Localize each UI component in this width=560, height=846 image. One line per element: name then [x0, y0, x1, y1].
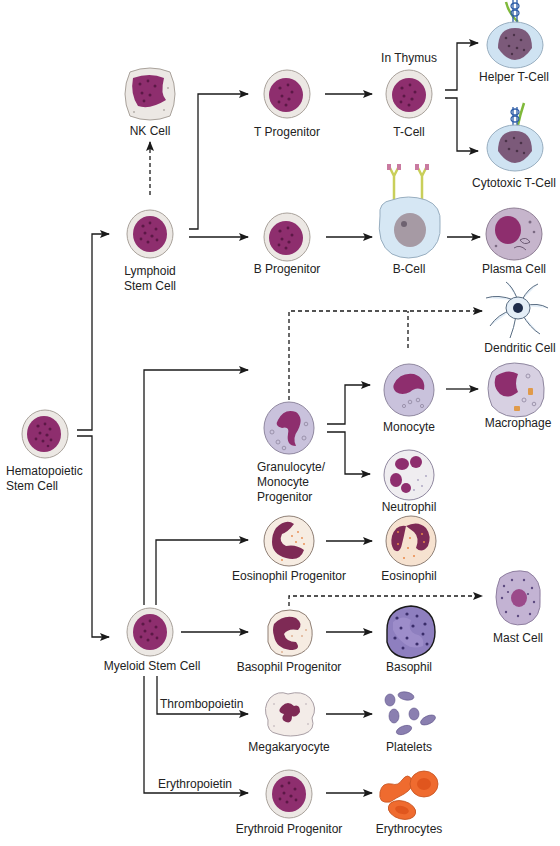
eosinophil-progenitor-label: Eosinophil Progenitor: [232, 569, 346, 584]
mast-cell-label: Mast Cell: [493, 631, 543, 646]
t-cell-label: T-Cell: [393, 125, 424, 140]
hsc-label: Hematopoietic Stem Cell: [6, 464, 83, 494]
basophil-progenitor-icon: [262, 606, 316, 660]
plasma-cell-icon: [484, 206, 544, 262]
helper-t-cell-label: Helper T-Cell: [479, 70, 549, 85]
cytotoxic-t-cell-label: Cytotoxic T-Cell: [472, 176, 556, 191]
gm-label-line2: Monocyte: [257, 475, 325, 490]
myeloid-stem-cell-label: Myeloid Stem Cell: [104, 659, 201, 674]
gm-label-line3: Progenitor: [257, 490, 325, 505]
arrow-myeloid-to-erythroid: [144, 676, 248, 793]
erythroid-progenitor-label: Erythroid Progenitor: [236, 822, 343, 837]
b-progenitor-icon: [262, 211, 312, 263]
b-cell-label: B-Cell: [393, 262, 426, 277]
basophil-progenitor-label: Basophil Progenitor: [237, 660, 342, 675]
basophil-label: Basophil: [386, 660, 432, 675]
hematopoiesis-diagram: Hematopoietic Stem Cell Lymphoid Stem Ce…: [0, 0, 560, 846]
lymphoid-label-line2: Stem Cell: [124, 279, 176, 294]
nk-cell-label: NK Cell: [130, 124, 171, 139]
macrophage-label: Macrophage: [485, 416, 552, 431]
arrow-gm-to-neutrophil: [327, 432, 370, 474]
eosinophil-label: Eosinophil: [381, 569, 436, 584]
myeloid-stem-cell-icon: [125, 606, 175, 658]
mast-cell-icon: [492, 568, 544, 628]
megakaryocyte-label: Megakaryocyte: [248, 740, 329, 755]
erythrocytes-icon: [378, 768, 440, 820]
erythrocytes-label: Erythrocytes: [376, 822, 443, 837]
lymphoid-label-line1: Lymphoid: [124, 264, 176, 279]
gm-label-line1: Granulocyte/: [257, 460, 325, 475]
nk-cell-icon: [120, 64, 180, 124]
platelets-label: Platelets: [386, 740, 432, 755]
platelets-icon: [382, 690, 438, 738]
neutrophil-icon: [382, 448, 436, 502]
in-thymus-annotation: In Thymus: [381, 51, 437, 66]
erythroid-progenitor-icon: [264, 768, 314, 820]
gm-progenitor-icon: [262, 400, 316, 456]
basophil-icon: [383, 604, 437, 660]
monocyte-icon: [382, 362, 436, 418]
b-cell-icon: [374, 164, 444, 264]
arrow-hsc-to-lymphoid: [77, 234, 109, 430]
arrow-t-cell-to-cytotoxic: [445, 98, 478, 151]
t-progenitor-icon: [262, 68, 312, 120]
lymphoid-stem-cell-icon: [125, 208, 175, 260]
helper-t-cell-icon: [484, 0, 544, 70]
dendritic-cell-label: Dendritic Cell: [484, 341, 555, 356]
eosinophil-progenitor-icon: [262, 514, 316, 568]
hsc-label-line2: Stem Cell: [6, 479, 83, 494]
thrombopoietin-label: Thrombopoietin: [160, 697, 243, 712]
neutrophil-label: Neutrophil: [382, 500, 437, 515]
gm-progenitor-label: Granulocyte/ Monocyte Progenitor: [257, 460, 325, 505]
hematopoietic-stem-cell-icon: [20, 408, 70, 460]
t-cell-icon: [384, 68, 434, 120]
megakaryocyte-icon: [262, 690, 318, 738]
erythropoietin-label: Erythropoietin: [158, 777, 232, 792]
hsc-label-line1: Hematopoietic: [6, 464, 83, 479]
macrophage-icon: [484, 358, 548, 420]
monocyte-label: Monocyte: [383, 420, 435, 435]
t-progenitor-label: T Progenitor: [254, 125, 320, 140]
arrow-gm-to-monocyte: [327, 385, 370, 424]
b-progenitor-label: B Progenitor: [254, 262, 321, 277]
eosinophil-icon: [384, 514, 438, 568]
dendritic-cell-icon: [484, 282, 550, 338]
arrow-t-cell-to-helper: [445, 43, 478, 90]
lymphoid-label: Lymphoid Stem Cell: [124, 264, 176, 294]
arrow-lymphoid-to-t-progenitor: [189, 94, 248, 229]
plasma-cell-label: Plasma Cell: [482, 262, 546, 277]
cytotoxic-t-cell-icon: [484, 103, 544, 173]
